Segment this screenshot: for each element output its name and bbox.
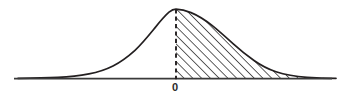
normal-distribution-figure: 0 bbox=[0, 0, 349, 100]
zero-tick-label: 0 bbox=[165, 82, 185, 93]
shaded-right-tail-area bbox=[170, 0, 340, 82]
